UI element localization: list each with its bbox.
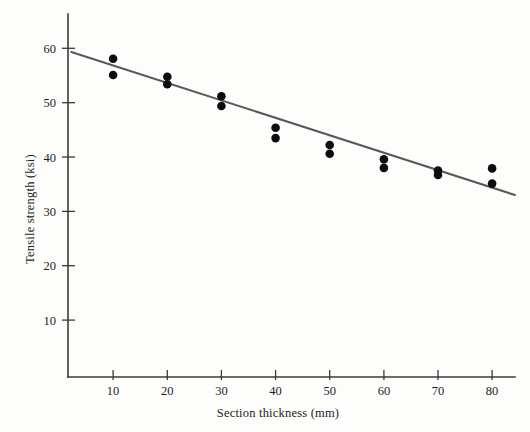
x-tick-label-40: 40 bbox=[269, 384, 282, 398]
data-point bbox=[325, 141, 334, 150]
x-tick-label-30: 30 bbox=[215, 384, 228, 398]
y-axis-tick-labels: 60 50 40 30 20 10 bbox=[44, 42, 57, 328]
x-tick-label-10: 10 bbox=[107, 384, 120, 398]
data-point bbox=[380, 164, 389, 173]
x-axis-ticks bbox=[113, 370, 492, 380]
tensile-strength-scatter-figure: 60 50 40 30 20 10 10 20 30 40 50 60 70 bbox=[0, 0, 530, 432]
fitted-regression-line bbox=[71, 52, 515, 195]
axis-lines bbox=[68, 14, 515, 377]
x-tick-label-60: 60 bbox=[378, 384, 391, 398]
y-axis-title: Tensile strength (ksi) bbox=[23, 154, 37, 264]
y-tick-label-10: 10 bbox=[44, 314, 57, 328]
x-tick-label-50: 50 bbox=[323, 384, 336, 398]
data-point bbox=[163, 80, 172, 89]
plot-canvas: 60 50 40 30 20 10 10 20 30 40 50 60 70 bbox=[0, 0, 530, 432]
data-point bbox=[271, 123, 280, 132]
data-point bbox=[488, 164, 497, 173]
y-tick-label-50: 50 bbox=[44, 96, 57, 110]
y-tick-label-30: 30 bbox=[44, 205, 57, 219]
data-point bbox=[163, 72, 172, 81]
x-tick-label-20: 20 bbox=[161, 384, 174, 398]
data-point bbox=[217, 102, 226, 111]
x-axis-tick-labels: 10 20 30 40 50 60 70 80 bbox=[107, 384, 499, 398]
y-tick-label-20: 20 bbox=[44, 259, 57, 273]
data-point bbox=[325, 149, 334, 158]
data-point bbox=[109, 71, 118, 80]
x-tick-label-80: 80 bbox=[486, 384, 499, 398]
data-point bbox=[109, 54, 118, 63]
y-tick-label-60: 60 bbox=[44, 42, 57, 56]
x-tick-label-70: 70 bbox=[432, 384, 445, 398]
data-point bbox=[434, 171, 443, 180]
y-tick-label-40: 40 bbox=[44, 151, 57, 165]
data-point bbox=[380, 155, 389, 164]
data-point-group bbox=[109, 54, 497, 188]
data-point bbox=[488, 179, 497, 188]
data-point bbox=[217, 92, 226, 101]
x-axis-title: Section thickness (mm) bbox=[217, 406, 339, 420]
data-point bbox=[271, 134, 280, 143]
